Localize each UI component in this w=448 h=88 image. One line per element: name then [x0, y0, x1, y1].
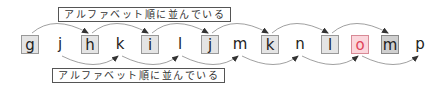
letter-n: n	[291, 35, 309, 54]
letter-p: p	[411, 35, 429, 54]
letter-k: k	[111, 35, 129, 54]
letter-k-boxed: k	[261, 35, 279, 54]
letter-h-boxed: h	[81, 35, 99, 54]
bottom-arrow	[362, 56, 418, 65]
letter-l-boxed: l	[321, 35, 339, 54]
bottom-arrow	[122, 56, 178, 65]
top-arrow	[272, 24, 328, 34]
letter-m-boxed: m	[381, 35, 399, 54]
bottom-arrow	[182, 56, 238, 65]
letter-i-boxed: i	[141, 35, 159, 54]
top-arrow	[92, 24, 148, 34]
letter-o-boxed: o	[351, 35, 369, 54]
bottom-label: アルファベット順に並んでいる	[52, 68, 225, 83]
letter-l: l	[171, 35, 189, 54]
top-arrow	[212, 24, 268, 34]
top-arrow	[32, 24, 88, 34]
top-arc-group	[32, 24, 388, 34]
bottom-arrow	[62, 56, 118, 65]
letter-j-boxed: j	[201, 35, 219, 54]
letter-m: m	[231, 35, 249, 54]
top-arrow	[332, 24, 388, 34]
top-arrow	[152, 24, 208, 34]
alphabet-order-diagram: アルファベット順に並んでいる gjhkiljmknlomp アルファベット順に並…	[0, 0, 448, 88]
letter-j: j	[51, 35, 69, 54]
bottom-arrow	[302, 56, 358, 65]
bottom-arc-group	[62, 56, 418, 65]
letter-g-boxed: g	[21, 35, 39, 54]
bottom-arrow	[242, 56, 298, 65]
top-label: アルファベット順に並んでいる	[58, 7, 231, 22]
